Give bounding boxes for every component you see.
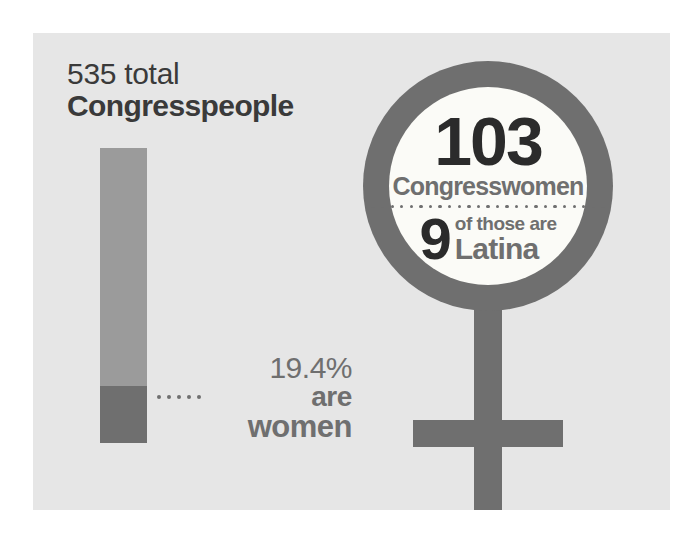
divider-dot (391, 205, 394, 208)
women-percentage-value: 19.4% (157, 353, 352, 383)
divider-dot (381, 205, 384, 208)
venus-symbol-icon: 103 Congresswomen (333, 43, 663, 510)
divider-dot (486, 205, 489, 208)
divider-dot (505, 205, 508, 208)
stacked-bar (100, 148, 147, 443)
women-percentage-label-are: are (157, 383, 352, 411)
divider-dot (410, 205, 413, 208)
women-percentage-label-women: women (157, 411, 352, 442)
divider-dot (601, 205, 604, 208)
divider-dot (525, 205, 528, 208)
divider-dot (544, 205, 547, 208)
divider-dot (458, 205, 461, 208)
divider-dot (534, 205, 537, 208)
divider-dot (477, 205, 480, 208)
divider-dot (592, 205, 595, 208)
venus-crossbar (413, 420, 563, 447)
congresswomen-count: 103 (434, 110, 541, 173)
total-congresspeople-value: 535 total (67, 58, 294, 90)
divider-dot (400, 205, 403, 208)
women-percentage-callout: 19.4% are women (157, 353, 352, 442)
divider-dot (515, 205, 518, 208)
divider-dot (496, 205, 499, 208)
latina-label-line1: of those are (455, 214, 557, 233)
bar-chart-block: 535 total Congresspeople 19.4% are women (67, 58, 357, 488)
divider-dot (553, 205, 556, 208)
latina-count: 9 (420, 214, 450, 264)
divider-dot (371, 205, 374, 208)
bar-chart-heading: 535 total Congresspeople (67, 58, 294, 122)
divider-dot (582, 205, 585, 208)
latina-stat-row: 9 of those are Latina (420, 214, 557, 264)
divider-dot (467, 205, 470, 208)
total-congresspeople-label: Congresspeople (67, 90, 294, 122)
divider-dot (573, 205, 576, 208)
divider-dot (563, 205, 566, 208)
bar-segment-men (100, 148, 147, 386)
bar-segment-women (100, 386, 147, 443)
dotted-divider (371, 205, 604, 208)
infographic-panel: 535 total Congresspeople 19.4% are women (33, 33, 670, 510)
venus-circle-ring: 103 Congresswomen (363, 61, 613, 311)
congresswomen-stats: 103 Congresswomen (363, 61, 613, 311)
latina-label-line2: Latina (455, 234, 557, 264)
latina-label-group: of those are Latina (455, 214, 557, 264)
congresswomen-label: Congresswomen (392, 174, 583, 199)
